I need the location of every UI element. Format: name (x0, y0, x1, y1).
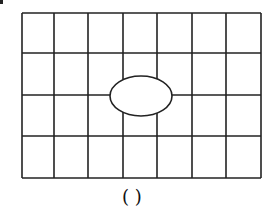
grid-diagram (0, 0, 264, 211)
answer-blank: ( ) (0, 186, 264, 207)
oval-shape (110, 76, 172, 116)
